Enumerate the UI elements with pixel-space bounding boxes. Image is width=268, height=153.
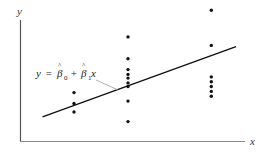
data-point <box>72 110 75 113</box>
data-point <box>210 85 213 88</box>
equation-plus: + <box>68 67 80 79</box>
fitted-line <box>43 47 237 117</box>
data-point <box>126 57 129 60</box>
data-point <box>210 44 213 47</box>
data-point <box>126 35 129 38</box>
data-point <box>210 9 213 12</box>
data-point <box>210 90 213 93</box>
equation-equals: = <box>43 67 55 79</box>
y-axis-label: y <box>16 5 22 17</box>
data-point <box>72 91 75 94</box>
data-point <box>126 85 129 88</box>
data-point <box>72 102 75 105</box>
equation-lhs: y <box>35 67 41 79</box>
regression-line <box>43 47 237 117</box>
data-point <box>126 99 129 102</box>
data-points <box>72 9 213 124</box>
regression-equation: y = β ^ 0 + β ^ 1 x <box>35 61 96 82</box>
data-point <box>126 120 129 123</box>
regression-chart: y x y = β ^ 0 + β ^ 1 x <box>0 0 268 153</box>
data-point <box>126 76 129 79</box>
x-axis-label: x <box>249 135 255 147</box>
equation-x: x <box>90 67 96 79</box>
data-point <box>126 81 129 84</box>
data-point <box>210 95 213 98</box>
data-point <box>126 73 129 76</box>
data-point <box>210 80 213 83</box>
data-point <box>210 75 213 78</box>
equation-pointer <box>96 80 118 90</box>
data-point <box>126 68 129 71</box>
